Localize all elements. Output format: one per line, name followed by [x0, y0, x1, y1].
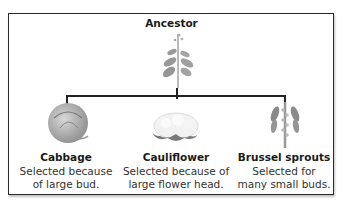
brussel-sprouts-title: Brussel sprouts [228, 151, 340, 165]
cauliflower-desc-line1: Selected because of [120, 165, 232, 179]
cabbage-desc-line1: Selected because [10, 165, 122, 179]
cauliflower-desc-line2: large flower head. [120, 178, 232, 192]
cabbage-icon [44, 98, 92, 146]
root-connector-line [176, 88, 178, 99]
cabbage-desc-line2: of large bud. [10, 178, 122, 192]
cauliflower-column: Cauliflower Selected because of large fl… [120, 151, 232, 192]
cabbage-title: Cabbage [10, 151, 122, 165]
brussel-sprouts-icon [268, 100, 302, 150]
cauliflower-title: Cauliflower [120, 151, 232, 165]
brussel-sprouts-column: Brussel sprouts Selected for many small … [228, 151, 340, 192]
cabbage-column: Cabbage Selected because of large bud. [10, 151, 122, 192]
brussel-sprouts-desc-line1: Selected for [228, 165, 340, 179]
ancestor-label: Ancestor [0, 17, 343, 29]
cauliflower-icon [148, 108, 204, 146]
brussel-sprouts-desc-line2: many small buds. [228, 178, 340, 192]
horizontal-connector-line [66, 95, 286, 97]
wild-mustard-plant-icon [158, 30, 198, 88]
